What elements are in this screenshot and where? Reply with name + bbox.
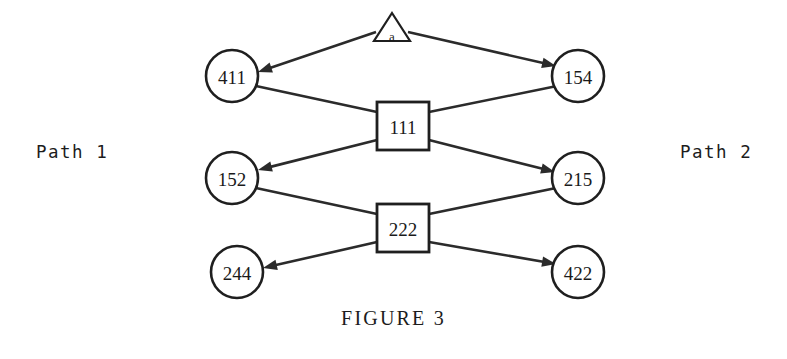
- node-a[interactable]: a: [374, 13, 410, 44]
- node-215[interactable]: 215: [552, 152, 604, 204]
- edge-111-to-154-line: [429, 86, 557, 112]
- edge-222-to-215-line: [429, 188, 556, 214]
- edge-222-to-422: [429, 242, 556, 267]
- edge-a-to-154-line: [408, 32, 548, 64]
- edge-111-to-152-line: [266, 140, 377, 168]
- node-111-label: 111: [389, 117, 416, 138]
- node-222-label: 222: [389, 219, 418, 240]
- edge-111-to-215: [429, 140, 555, 174]
- node-411[interactable]: 411: [206, 50, 258, 102]
- edge-222-to-215: [429, 188, 556, 214]
- edge-a-to-411: [258, 32, 376, 72]
- node-154-label: 154: [564, 67, 593, 88]
- edge-152-to-222-line: [256, 188, 377, 214]
- edge-111-to-152-arrowhead: [258, 162, 273, 172]
- edge-111-to-154: [429, 86, 557, 112]
- node-a-label: a: [389, 29, 395, 44]
- node-411-label: 411: [218, 67, 246, 88]
- edge-a-to-411-line: [266, 32, 376, 69]
- node-422[interactable]: 422: [552, 246, 604, 298]
- edge-222-to-422-line: [429, 242, 547, 263]
- edge-411-to-111: [256, 86, 377, 112]
- node-152[interactable]: 152: [206, 152, 258, 204]
- node-244-label: 244: [223, 263, 252, 284]
- path-1-label: Path 1: [36, 142, 108, 162]
- edge-411-to-111-line: [256, 86, 377, 112]
- edge-111-to-152: [258, 140, 377, 172]
- edge-222-to-244: [263, 242, 377, 270]
- node-111[interactable]: 111: [377, 102, 429, 150]
- node-152-label: 152: [218, 169, 247, 190]
- edge-152-to-222: [256, 188, 377, 214]
- nodes-layer: a411154111152215222244422: [206, 13, 604, 298]
- path-2-label: Path 2: [680, 142, 752, 162]
- node-244[interactable]: 244: [211, 246, 263, 298]
- edge-222-to-244-line: [271, 242, 377, 266]
- node-422-label: 422: [564, 263, 593, 284]
- node-222[interactable]: 222: [377, 204, 429, 252]
- edge-111-to-215-line: [429, 140, 547, 170]
- figure-3-diagram: a411154111152215222244422 Path 1 Path 2 …: [0, 0, 787, 359]
- node-154[interactable]: 154: [552, 50, 604, 102]
- edge-a-to-154: [408, 32, 556, 68]
- node-215-label: 215: [564, 169, 593, 190]
- diagram-canvas: a411154111152215222244422: [0, 0, 787, 359]
- edge-a-to-411-arrowhead: [258, 63, 273, 73]
- figure-caption: FIGURE 3: [0, 307, 787, 330]
- edge-222-to-244-arrowhead: [263, 260, 278, 270]
